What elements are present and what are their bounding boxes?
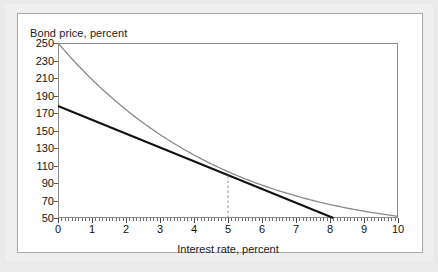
x-tick-minor — [95, 218, 96, 221]
y-tick-mark — [54, 166, 58, 167]
x-tick-minor — [313, 218, 314, 221]
y-tick-label: 130 — [14, 142, 54, 154]
y-tick-mark — [54, 113, 58, 114]
x-tick-minor — [153, 218, 154, 221]
x-tick-minor — [269, 218, 270, 221]
x-tick-minor — [242, 218, 243, 221]
x-tick-minor — [316, 218, 317, 221]
x-tick-minor — [327, 218, 328, 221]
x-tick-minor — [272, 218, 273, 221]
y-tick-label: 230 — [14, 55, 54, 67]
x-tick-minor — [61, 218, 62, 221]
x-tick-minor — [252, 218, 253, 221]
x-tick-minor — [340, 218, 341, 221]
x-tick-minor — [187, 218, 188, 221]
x-tick-minor — [197, 218, 198, 221]
plot-area: 507090110130150170190210230250 012345678… — [58, 43, 398, 218]
x-tick-minor — [276, 218, 277, 221]
x-tick-minor — [347, 218, 348, 221]
x-tick-minor — [395, 218, 396, 221]
x-tick-minor — [177, 218, 178, 221]
x-tick-minor — [350, 218, 351, 221]
x-tick-minor — [265, 218, 266, 221]
x-tick-minor — [89, 218, 90, 221]
chart-panel: Bond price, percent 50709011013015017019… — [17, 13, 423, 253]
x-tick-minor — [259, 218, 260, 221]
x-tick-minor — [344, 218, 345, 221]
y-tick-mark — [54, 61, 58, 62]
x-tick-minor — [163, 218, 164, 221]
x-tick-minor — [303, 218, 304, 221]
x-tick-minor — [157, 218, 158, 221]
y-tick-mark — [54, 183, 58, 184]
x-tick-minor — [218, 218, 219, 221]
x-tick-minor — [72, 218, 73, 221]
x-tick-minor — [123, 218, 124, 221]
x-tick-minor — [293, 218, 294, 221]
x-tick-minor — [238, 218, 239, 221]
y-tick-label: 110 — [14, 160, 54, 172]
x-tick-label: 4 — [191, 223, 197, 235]
x-tick-minor — [112, 218, 113, 221]
y-tick-label: 150 — [14, 125, 54, 137]
y-tick-label: 210 — [14, 72, 54, 84]
x-tick-minor — [391, 218, 392, 221]
x-tick-minor — [109, 218, 110, 221]
x-tick-minor — [102, 218, 103, 221]
x-tick-minor — [167, 218, 168, 221]
x-tick-label: 7 — [293, 223, 299, 235]
x-axis-title: Interest rate, percent — [58, 243, 398, 255]
x-tick-minor — [129, 218, 130, 221]
x-tick-minor — [143, 218, 144, 221]
x-tick-minor — [85, 218, 86, 221]
x-tick-minor — [374, 218, 375, 221]
x-tick-label: 5 — [225, 223, 231, 235]
x-tick-minor — [116, 218, 117, 221]
x-tick-minor — [320, 218, 321, 221]
x-tick-minor — [337, 218, 338, 221]
x-tick-minor — [361, 218, 362, 221]
x-tick-minor — [245, 218, 246, 221]
x-tick-label: 3 — [157, 223, 163, 235]
x-tick-minor — [211, 218, 212, 221]
x-tick-minor — [136, 218, 137, 221]
x-tick-minor — [299, 218, 300, 221]
x-tick-minor — [133, 218, 134, 221]
x-tick-minor — [323, 218, 324, 221]
y-tick-label: 70 — [14, 195, 54, 207]
x-tick-label: 6 — [259, 223, 265, 235]
y-tick-label: 250 — [14, 37, 54, 49]
x-tick-minor — [310, 218, 311, 221]
x-tick-label: 10 — [392, 223, 404, 235]
y-tick-mark — [54, 43, 58, 44]
y-tick-label: 90 — [14, 177, 54, 189]
x-tick-minor — [106, 218, 107, 221]
x-tick-minor — [170, 218, 171, 221]
x-tick-minor — [75, 218, 76, 221]
x-tick-minor — [184, 218, 185, 221]
x-tick-minor — [306, 218, 307, 221]
x-tick-label: 1 — [89, 223, 95, 235]
series-bond-price-curve — [58, 43, 398, 216]
y-tick-mark — [54, 201, 58, 202]
x-tick-minor — [225, 218, 226, 221]
x-tick-minor — [174, 218, 175, 221]
chart-svg — [58, 43, 398, 218]
y-tick-mark — [54, 131, 58, 132]
x-tick-minor — [119, 218, 120, 221]
x-tick-minor — [99, 218, 100, 221]
x-tick-minor — [146, 218, 147, 221]
y-tick-label: 50 — [14, 212, 54, 224]
y-tick-mark — [54, 148, 58, 149]
x-tick-minor — [248, 218, 249, 221]
series-tangent-line — [58, 106, 333, 218]
x-tick-minor — [388, 218, 389, 221]
x-tick-label: 8 — [327, 223, 333, 235]
x-tick-minor — [279, 218, 280, 221]
y-tick-mark — [54, 78, 58, 79]
figure-root: Bond price, percent 50709011013015017019… — [0, 0, 438, 272]
x-tick-minor — [381, 218, 382, 221]
x-tick-minor — [357, 218, 358, 221]
x-tick-minor — [378, 218, 379, 221]
x-tick-minor — [354, 218, 355, 221]
